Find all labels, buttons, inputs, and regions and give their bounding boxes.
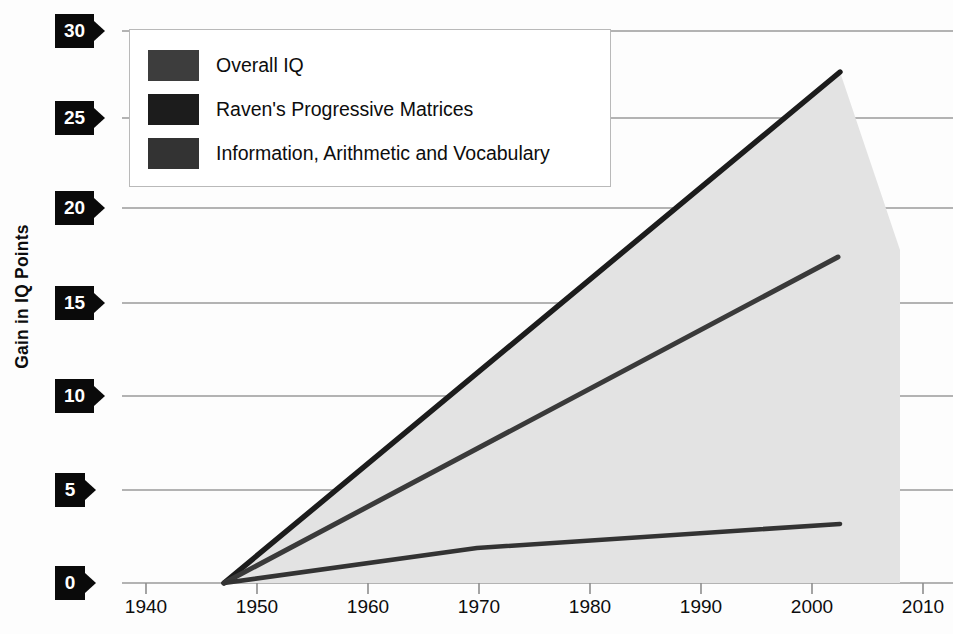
y-tick-label-20: 20	[55, 191, 94, 225]
x-tick-label-1950: 1950	[236, 596, 278, 618]
x-axis-ticks	[146, 583, 923, 594]
legend-item-overall-iq: Overall IQ	[148, 43, 610, 87]
chart-legend: Overall IQ Raven's Progressive Matrices …	[129, 29, 611, 187]
y-tick-label-0: 0	[55, 566, 85, 600]
y-tick-label-10: 10	[55, 379, 94, 413]
y-tick-label-15: 15	[55, 286, 94, 320]
color-swatch-icon	[148, 94, 199, 125]
x-tick-label-1960: 1960	[347, 596, 389, 618]
y-tick-label-25: 25	[55, 101, 94, 135]
legend-item-label: Information, Arithmetic and Vocabulary	[216, 142, 550, 165]
legend-item-information-arithmetic-vocabulary: Information, Arithmetic and Vocabulary	[148, 131, 610, 175]
legend-item-ravens-progressive-matrices: Raven's Progressive Matrices	[148, 87, 610, 131]
legend-item-label: Overall IQ	[216, 54, 304, 77]
color-swatch-icon	[148, 138, 199, 169]
x-tick-label-2000: 2000	[791, 596, 833, 618]
legend-item-label: Raven's Progressive Matrices	[216, 98, 473, 121]
x-tick-label-1970: 1970	[458, 596, 500, 618]
y-tick-label-5: 5	[55, 473, 85, 507]
x-tick-label-2010: 2010	[902, 596, 944, 618]
x-tick-label-1980: 1980	[569, 596, 611, 618]
color-swatch-icon	[148, 50, 199, 81]
y-axis-title: Gain in IQ Points	[12, 187, 33, 407]
y-tick-label-30: 30	[55, 14, 94, 48]
x-tick-label-1940: 1940	[125, 596, 167, 618]
x-tick-label-1990: 1990	[680, 596, 722, 618]
iq-gain-line-chart: Gain in IQ Points 30 25 20 15 10 5 0 194…	[0, 0, 953, 634]
